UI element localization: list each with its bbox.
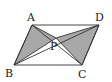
label-b: B: [5, 67, 13, 80]
label-a: A: [26, 11, 36, 24]
label-p: P: [50, 40, 58, 53]
shaded-triangle-pcd: [56, 25, 99, 65]
geometry-diagram: A D B C P: [0, 0, 112, 82]
label-c: C: [78, 68, 86, 81]
label-d: D: [95, 11, 104, 24]
